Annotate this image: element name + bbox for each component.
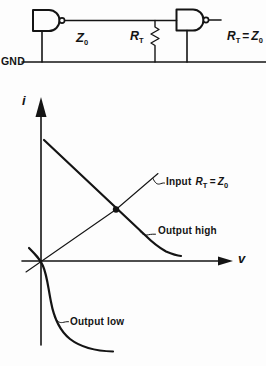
- current-axis-label: i: [22, 94, 26, 107]
- x-axis-arrow-icon: [218, 257, 233, 266]
- rt-equals-z0-label: RT=Z0: [227, 30, 263, 44]
- receiver-nand-gate-icon: [177, 10, 204, 31]
- output-low-label: Output low: [70, 317, 124, 327]
- termination-resistor-icon: [151, 21, 159, 63]
- operating-point-dot: [113, 206, 119, 212]
- terminated-transmission-line-figure: GND Z0 RT RT=Z0 i v InputRT=Z0 Output hi…: [0, 0, 266, 366]
- output-high-curve: [44, 140, 181, 256]
- input-load-line-label: InputRT=Z0: [166, 177, 228, 189]
- y-axis-arrow-icon: [36, 97, 47, 117]
- gnd-label: GND: [1, 56, 25, 67]
- voltage-axis-label: v: [238, 252, 245, 265]
- z0-label: Z0: [76, 31, 88, 46]
- rt-label: RT: [130, 30, 144, 44]
- termination-load-line: [26, 174, 158, 273]
- input-label-leader: [153, 179, 165, 185]
- driver-nand-gate-icon: [33, 10, 60, 31]
- output-high-label: Output high: [158, 226, 217, 236]
